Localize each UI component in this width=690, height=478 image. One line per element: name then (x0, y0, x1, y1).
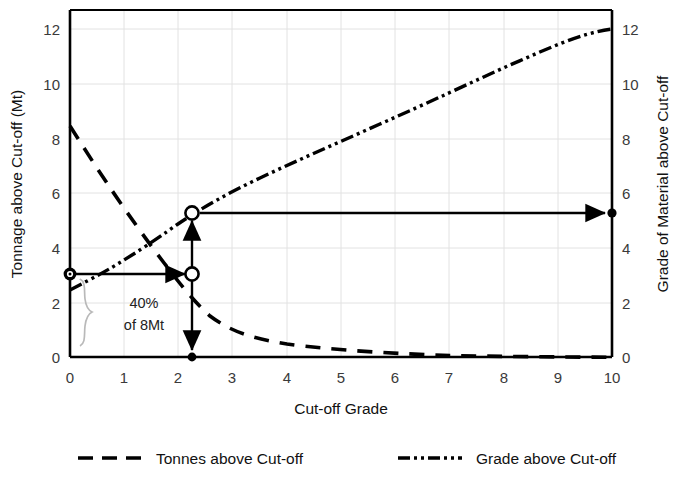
x-tick-9: 9 (554, 369, 562, 386)
y2-tick-0: 0 (622, 349, 630, 366)
x-axis-title: Cut-off Grade (294, 400, 388, 417)
marker-base-tonnage-core (69, 273, 72, 276)
marker-grade-at-cutoff (185, 206, 198, 219)
y-tick-0: 0 (52, 349, 60, 366)
y2-tick-10: 10 (622, 76, 639, 93)
annotation-label-line2: of 8Mt (124, 317, 164, 333)
x-tick-3: 3 (228, 369, 236, 386)
x-tick-6: 6 (391, 369, 399, 386)
x-tick-10: 10 (604, 369, 621, 386)
marker-cutoff-on-x-axis (188, 353, 197, 362)
y2-tick-8: 8 (622, 131, 630, 148)
y2-tick-6: 6 (622, 185, 630, 202)
y2-tick-2: 2 (622, 295, 630, 312)
annotation-label-line1: 40% (129, 295, 158, 311)
marker-tonnage-at-cutoff (185, 267, 198, 280)
marker-grade-on-right-axis (607, 208, 616, 217)
y-axis-left-title: Tonnage above Cut-off (Mt) (8, 90, 25, 278)
x-tick-1: 1 (120, 369, 128, 386)
y-tick-2: 2 (52, 295, 60, 312)
y-tick-4: 4 (52, 240, 60, 257)
legend-label-grade: Grade above Cut-off (476, 450, 617, 467)
x-tick-8: 8 (500, 369, 508, 386)
legend-label-tonnes: Tonnes above Cut-off (156, 450, 304, 467)
y-tick-6: 6 (52, 185, 60, 202)
y2-tick-4: 4 (622, 240, 630, 257)
x-tick-5: 5 (337, 369, 345, 386)
y2-tick-12: 12 (622, 21, 639, 38)
x-tick-0: 0 (66, 369, 74, 386)
x-tick-4: 4 (283, 369, 291, 386)
cut-off-grade-chart: 40% of 8Mt 0 2 4 6 8 10 12 0 2 4 6 8 10 … (0, 0, 690, 478)
y-tick-12: 12 (43, 21, 60, 38)
y-tick-8: 8 (52, 131, 60, 148)
y-tick-10: 10 (43, 76, 60, 93)
y-axis-right-title: Grade of Material above Cut-off (654, 75, 671, 293)
x-tick-2: 2 (174, 369, 182, 386)
x-tick-7: 7 (445, 369, 453, 386)
